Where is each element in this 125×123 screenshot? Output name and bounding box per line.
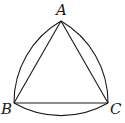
vertex-label-c: C bbox=[110, 102, 121, 117]
arc-bc bbox=[14, 103, 108, 116]
vertex-label-a: A bbox=[56, 3, 67, 18]
segment-ca bbox=[61, 21, 108, 103]
vertex-label-b: B bbox=[1, 102, 12, 117]
reuleaux-triangle-diagram: A B C bbox=[0, 0, 125, 123]
segment-ab bbox=[14, 21, 61, 103]
